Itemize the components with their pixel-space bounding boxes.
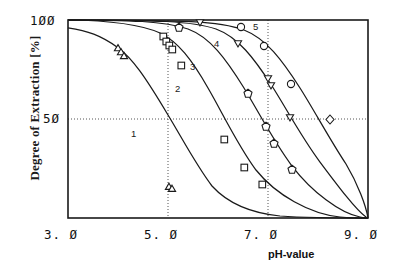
marker-point [288, 165, 296, 173]
marker-point [237, 23, 244, 30]
curve-1 [68, 28, 368, 218]
markers-series-4 [196, 20, 293, 121]
markers-series-2 [160, 33, 266, 188]
chart-figure: Degree of Extraction [%] 1ØØ 5Ø 3. Ø 5. … [0, 0, 397, 272]
marker-point [326, 115, 334, 124]
curve-label-2: 2 [175, 83, 180, 94]
curve-label-5: 5 [253, 21, 258, 32]
marker-point [178, 62, 185, 69]
curve-label-4: 4 [214, 38, 219, 49]
curve-label-1: 1 [131, 128, 136, 139]
markers-series-1 [114, 45, 175, 192]
marker-point [264, 76, 271, 82]
marker-point [221, 136, 228, 143]
gridlines [68, 20, 368, 218]
marker-point [287, 80, 294, 87]
marker-point [270, 139, 278, 147]
chart-canvas: 1 2 3 4 5 [0, 0, 397, 272]
curve-label-3: 3 [190, 61, 195, 72]
marker-point [169, 46, 176, 53]
markers-series-3 [175, 23, 296, 173]
marker-point [175, 23, 183, 31]
marker-point [262, 122, 270, 130]
marker-point [260, 42, 267, 49]
marker-point [259, 181, 266, 188]
marker-point [234, 41, 241, 47]
marker-point [241, 164, 248, 171]
